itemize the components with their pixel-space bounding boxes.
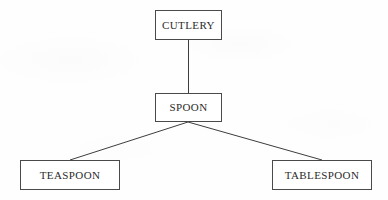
edge-spoon-to-tablespoon xyxy=(188,122,322,160)
node-spoon-label: SPOON xyxy=(169,102,207,113)
edge-spoon-to-teaspoon xyxy=(70,122,188,160)
node-teaspoon[interactable]: TEASPOON xyxy=(20,160,120,190)
node-tablespoon-label: TABLESPOON xyxy=(285,170,360,181)
cutlery-hierarchy-diagram: CUTLERY SPOON TEASPOON TABLESPOON xyxy=(0,0,388,200)
node-teaspoon-label: TEASPOON xyxy=(40,170,101,181)
node-cutlery[interactable]: CUTLERY xyxy=(155,10,222,40)
node-spoon[interactable]: SPOON xyxy=(155,93,222,122)
node-tablespoon[interactable]: TABLESPOON xyxy=(272,160,372,190)
node-cutlery-label: CUTLERY xyxy=(162,20,215,31)
